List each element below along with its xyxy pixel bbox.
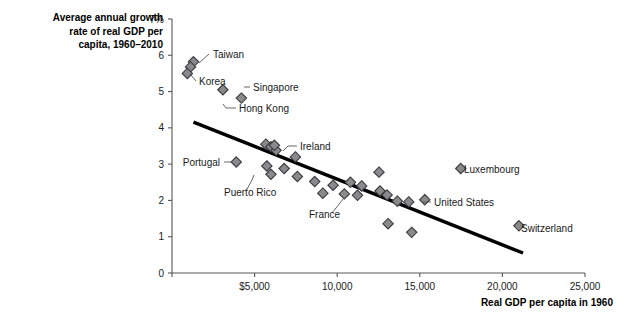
data-point-marker[interactable] bbox=[236, 93, 246, 103]
y-tick-label-1: 1 bbox=[158, 231, 164, 242]
chart-title-line-2: capita, 1960–2010 bbox=[78, 39, 163, 50]
data-point-marker[interactable] bbox=[339, 189, 349, 199]
chart-title-line-0: Average annual growth bbox=[53, 12, 163, 23]
data-point-marker[interactable] bbox=[231, 157, 241, 167]
data-point-marker[interactable] bbox=[407, 227, 417, 237]
data-point-marker[interactable] bbox=[310, 176, 320, 186]
data-points bbox=[182, 57, 524, 238]
annotation-label-5: Portugal bbox=[183, 157, 220, 168]
annotation-label-1: Korea bbox=[199, 76, 226, 87]
annotation-label-8: United States bbox=[434, 197, 494, 208]
data-point-marker[interactable] bbox=[383, 218, 393, 228]
annotation-label-2: Singapore bbox=[253, 82, 299, 93]
annotation-leader-line-4 bbox=[283, 146, 297, 151]
x-tick-label-2: 10,000 bbox=[322, 281, 353, 292]
x-tick-label-5: 25,000 bbox=[570, 281, 601, 292]
y-tick-label-4: 4 bbox=[158, 122, 164, 133]
data-point-marker[interactable] bbox=[292, 171, 302, 181]
x-tick-label-3: 15,000 bbox=[405, 281, 436, 292]
annotation-leader-line-0 bbox=[199, 54, 209, 63]
annotation-label-9: Luxembourg bbox=[464, 164, 520, 175]
chart-canvas: 01234567%$5,00010,00015,00020,00025,000A… bbox=[0, 0, 627, 319]
annotation-label-7: France bbox=[309, 209, 341, 220]
annotation-label-4: Ireland bbox=[300, 141, 331, 152]
data-point-marker[interactable] bbox=[318, 188, 328, 198]
annotation-label-0: Taiwan bbox=[213, 49, 244, 60]
scatter-chart-figure: 01234567%$5,00010,00015,00020,00025,000A… bbox=[0, 0, 627, 319]
y-tick-label-2: 2 bbox=[158, 195, 164, 206]
x-tick-label-1: $5,000 bbox=[239, 281, 270, 292]
annotation-leader-line-3 bbox=[223, 104, 236, 108]
y-tick-label-3: 3 bbox=[158, 159, 164, 170]
annotation-label-10: Switzerland bbox=[521, 223, 573, 234]
data-point-marker[interactable] bbox=[420, 195, 430, 205]
chart-title: Average annual growthrate of real GDP pe… bbox=[53, 12, 164, 50]
x-axis-title-label: Real GDP per capita in 1960 bbox=[481, 297, 614, 308]
data-point-marker[interactable] bbox=[328, 180, 338, 190]
annotation-label-3: Hong Kong bbox=[239, 103, 289, 114]
x-axis-ticks: $5,00010,00015,00020,00025,000 bbox=[172, 273, 601, 292]
chart-title-line-1: rate of real GDP per bbox=[69, 26, 163, 37]
data-point-marker[interactable] bbox=[374, 167, 384, 177]
data-point-marker[interactable] bbox=[352, 190, 362, 200]
annotation-leader-line-1 bbox=[190, 74, 196, 81]
data-point-marker[interactable] bbox=[279, 163, 289, 173]
y-tick-label-0: 0 bbox=[158, 268, 164, 279]
y-tick-label-5: 5 bbox=[158, 86, 164, 97]
y-axis-ticks: 01234567% bbox=[150, 14, 172, 279]
annotation-label-6: Puerto Rico bbox=[224, 187, 277, 198]
y-tick-label-6: 6 bbox=[158, 50, 164, 61]
x-tick-label-4: 20,000 bbox=[487, 281, 518, 292]
x-axis-title: Real GDP per capita in 1960 bbox=[481, 297, 614, 308]
